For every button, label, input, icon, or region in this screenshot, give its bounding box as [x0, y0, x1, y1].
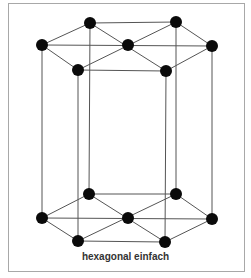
atom-node — [159, 236, 171, 248]
lattice-edges — [42, 22, 212, 242]
hexagonal-lattice-diagram — [0, 0, 251, 278]
lattice-atoms — [36, 16, 218, 248]
diagram-caption: hexagonal einfach — [0, 251, 251, 262]
atom-node — [84, 17, 96, 29]
atom-node — [206, 40, 218, 52]
atom-node — [122, 212, 134, 224]
atom-node — [160, 65, 172, 77]
atom-node — [72, 235, 84, 247]
atom-node — [170, 16, 182, 28]
atom-node — [72, 64, 84, 76]
atom-node — [206, 213, 218, 225]
atom-node — [170, 188, 182, 200]
atom-node — [83, 188, 95, 200]
atom-node — [36, 212, 48, 224]
atom-node — [36, 39, 48, 51]
atom-node — [122, 39, 134, 51]
